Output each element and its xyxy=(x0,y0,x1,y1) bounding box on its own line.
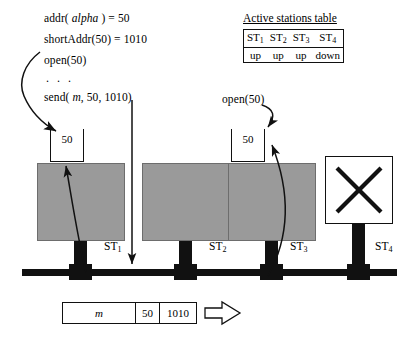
st2-head-text: ST xyxy=(270,31,283,43)
st2-head-sub: 2 xyxy=(283,36,287,45)
st3-head-sub: 3 xyxy=(306,36,310,45)
st1-head-text: ST xyxy=(247,31,260,43)
open-call-label-st3: open(50) xyxy=(222,93,264,106)
code-addr-post: ) = 50 xyxy=(98,12,129,24)
station-label-st3-sub: 3 xyxy=(303,245,307,254)
table-header-st3: ST3 xyxy=(290,30,313,48)
code-line-addr: addr( alpha ) = 50 xyxy=(44,12,130,25)
buffer-box-st1: 50 xyxy=(50,129,84,162)
active-stations-table-title: Active stations table xyxy=(243,12,337,24)
st4-head-text: ST xyxy=(319,31,332,43)
code-addr-pre: addr( xyxy=(44,12,72,24)
bus-node-st3 xyxy=(260,264,283,280)
table-row-states: up up up down xyxy=(244,48,344,63)
code-line-open: open(50) xyxy=(44,54,86,67)
message-packet: m 50 1010 xyxy=(62,302,197,324)
packet-body-value: m xyxy=(95,307,103,319)
station-box-st3[interactable] xyxy=(228,163,316,241)
buffer-value-st1: 50 xyxy=(51,133,83,145)
station-label-st2-sub: 2 xyxy=(222,245,226,254)
station-label-st1-sub: 1 xyxy=(117,245,121,254)
table-cell-state-st3: up xyxy=(290,48,313,63)
st3-head-text: ST xyxy=(293,31,306,43)
station-label-st4-text: ST xyxy=(375,240,388,252)
station-label-st3: ST3 xyxy=(290,240,307,254)
code-send-italic: m xyxy=(72,91,80,103)
bus-node-st2 xyxy=(174,264,197,280)
table-row-headers: ST1 ST2 ST3 ST4 xyxy=(244,30,344,48)
packet-field-address: 50 xyxy=(135,303,159,323)
table-cell-state-st1: up xyxy=(244,48,267,63)
packet-field-body: m xyxy=(63,303,135,323)
packet-field-short-address: 1010 xyxy=(159,303,196,323)
station-box-st1[interactable] xyxy=(37,163,125,241)
station-label-st3-text: ST xyxy=(290,240,303,252)
station-box-st4[interactable] xyxy=(325,156,393,224)
table-cell-state-st4: down xyxy=(313,48,344,63)
code-addr-italic: alpha xyxy=(72,12,99,24)
stations-table-grid: ST1 ST2 ST3 ST4 up up up down xyxy=(243,29,344,63)
packet-direction-arrow xyxy=(205,302,240,324)
station-stem-st4 xyxy=(352,224,365,269)
code-line-send: send( m, 50, 1010) xyxy=(44,91,132,104)
active-stations-table: ST1 ST2 ST3 ST4 up up up down xyxy=(243,29,344,63)
code-send-post: , 50, 1010) xyxy=(81,91,132,103)
bus-node-st1 xyxy=(69,264,92,280)
station-label-st2-text: ST xyxy=(209,240,222,252)
table-cell-state-st2: up xyxy=(267,48,290,63)
station-label-st2: ST2 xyxy=(209,240,226,254)
table-header-st2: ST2 xyxy=(267,30,290,48)
table-header-st1: ST1 xyxy=(244,30,267,48)
buffer-value-st3: 50 xyxy=(232,133,264,145)
code-line-ellipsis: . . . xyxy=(46,72,74,85)
code-line-shortaddr: shortAddr(50) = 1010 xyxy=(44,33,147,46)
st4-head-sub: 4 xyxy=(332,36,336,45)
st1-head-sub: 1 xyxy=(260,36,264,45)
arrow-open-to-buffer-st3 xyxy=(262,105,273,127)
station-box-st2[interactable] xyxy=(142,163,230,241)
buffer-box-st3: 50 xyxy=(231,129,265,162)
station-label-st4: ST4 xyxy=(375,240,392,254)
station-label-st1: ST1 xyxy=(104,240,121,254)
code-send-pre: send( xyxy=(44,91,72,103)
table-header-st4: ST4 xyxy=(313,30,344,48)
station-label-st1-text: ST xyxy=(104,240,117,252)
bus-node-st4 xyxy=(347,264,370,280)
figure-canvas: addr( alpha ) = 50 shortAddr(50) = 1010 … xyxy=(0,0,404,337)
station-label-st4-sub: 4 xyxy=(388,245,392,254)
